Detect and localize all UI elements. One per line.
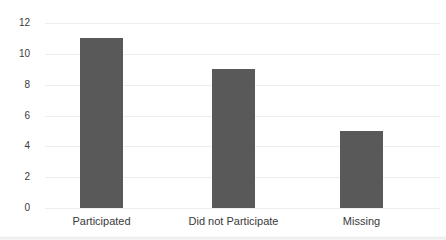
gridline-y-12: [45, 23, 440, 24]
bar-missing: [340, 131, 383, 208]
x-category-label: Missing: [343, 216, 380, 227]
x-category-label: Participated: [72, 216, 130, 227]
bar-did-not-participate: [212, 69, 255, 208]
y-tick-label: 2: [6, 172, 30, 182]
y-tick-label: 12: [6, 18, 30, 28]
y-tick-label: 6: [6, 111, 30, 121]
gridline-y-0: [45, 208, 440, 209]
window-bottom-edge: [0, 233, 446, 240]
x-category-label: Did not Participate: [189, 216, 279, 227]
y-tick-label: 4: [6, 141, 30, 151]
bar-participated: [80, 38, 123, 208]
y-tick-label: 0: [6, 203, 30, 213]
bar-chart: 024681012 ParticipatedDid not Participat…: [0, 0, 446, 240]
y-tick-label: 8: [6, 80, 30, 90]
y-tick-label: 10: [6, 49, 30, 59]
